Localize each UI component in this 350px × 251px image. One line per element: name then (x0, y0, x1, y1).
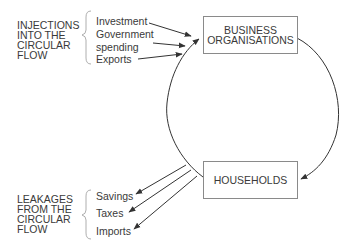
flow-arc-business-to-households (297, 38, 339, 179)
circular-flow-diagram: BUSINESS ORGANISATIONS HOUSEHOLDS INJECT… (0, 0, 350, 251)
leakage-arrow-savings (136, 165, 186, 194)
injection-arrow-investment (149, 23, 191, 36)
injection-item-government: Government (96, 29, 154, 39)
flow-arc-households-to-business (167, 39, 203, 177)
leakage-arrow-taxes (129, 170, 191, 212)
injections-brace (82, 11, 91, 64)
households-node: HOUSEHOLDS (203, 161, 298, 199)
leakage-item-imports: Imports (96, 226, 131, 236)
business-organisations-label: BUSINESS ORGANISATIONS (207, 25, 294, 45)
injections-title: INJECTIONS INTO THE CIRCULAR FLOW (17, 20, 79, 60)
households-label: HOUSEHOLDS (214, 175, 288, 185)
injection-item-spending: spending (96, 42, 139, 52)
injection-arrow-government (153, 43, 185, 46)
leakages-title: LEAKAGES FROM THE CIRCULAR FLOW (17, 194, 73, 234)
leakages-brace (82, 190, 91, 239)
leakage-item-taxes: Taxes (96, 208, 123, 218)
injection-arrow-exports (138, 54, 182, 59)
injection-item-investment: Investment (96, 16, 147, 26)
business-organisations-node: BUSINESS ORGANISATIONS (203, 16, 298, 54)
leakage-item-savings: Savings (96, 191, 133, 201)
injection-item-exports: Exports (96, 54, 132, 64)
